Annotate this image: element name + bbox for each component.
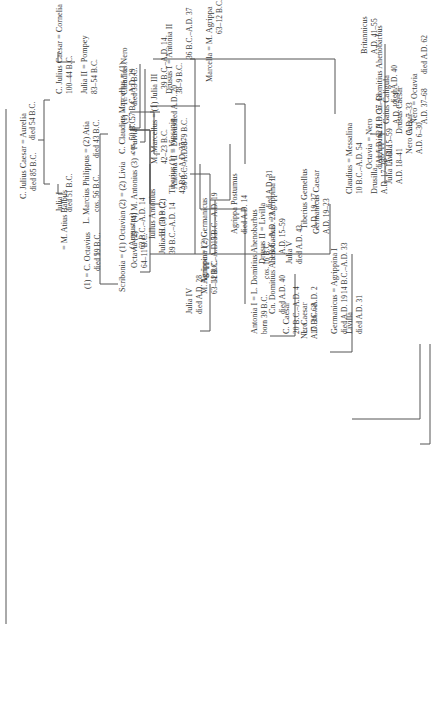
person-name: Livilla [345,295,355,334]
person-julia-livilla: Julia Livilla A.D. 18–41 [385,145,405,184]
person-dates: died A.D. 40 [390,65,400,104]
person-c-julius-caesar: C. Julius Caesar = Cornelia 100–44 B.C. [55,4,75,94]
person-atia-dates: died 43 B.C. [92,119,102,158]
person-julia-iii: Julia III (3) = (2) 39 B.C.–A.D. 14 [158,198,178,254]
person-dates: 63 B.C.–A.D. 14 [138,197,148,249]
person-name: (Augustus) [128,197,138,249]
person-name: Cn. Domitius Ahenobarbus = Agrippina II [268,176,278,314]
person-name: Britannicus [360,16,370,54]
person-name: (1) = C. Octavius [83,232,93,289]
person-name: Nero [300,303,310,339]
person-name: Julia III (3) = (2) [158,198,168,254]
person-dates: 38–9 B.C. [175,24,185,94]
person-claudius: Claudius = Messalina 10 B.C.–A.D. 54 [345,123,365,194]
person-ti-claudius-nero: (1) = Ti. Claudius Nero died 33 B.C. [120,47,140,124]
person-drusus-i-antonia-ii: Drusus I = Antonia II 38–9 B.C. [165,24,185,94]
person-dates: A.D. 19–23 [322,170,332,234]
person-name: Julia IV [185,275,195,314]
person-aurelia-dates: died 54 B.C. [28,101,38,140]
person-name: C. Julius Caesar = Cornelia [55,4,65,94]
person-name: Drusilla [370,158,380,194]
person-dates: died A.D. 14 [240,173,250,234]
person-agrippa-postumus: Agrippa Postumus died A.D. 14 [230,173,250,234]
person-dates: died 59 B.C. [93,232,103,289]
person-dates: died 33 B.C. [130,47,140,124]
person-name: M. Marcellus = (1) Julia III [150,74,160,164]
person-dates: died A.D. 43 [295,225,305,264]
person-name: Tiberius (1) = Vipsania [168,118,178,194]
person-name: Julia Livilla [385,145,395,184]
person-name: Drusus II = Livilla [258,203,268,264]
person-dates: 63–12 B.C. [215,0,225,82]
person-name: L. Marcius Philippus = (2) Atia [82,121,92,224]
person-nero-a: Nero A.D. 36–68 [300,303,320,339]
person-cn-domitius-ahenobarbus-2: died A.D. 40 [390,65,400,104]
person-agrippina-ii-dates: A.D. 15–59 [278,218,288,254]
tree-connector-lines [0,0,432,724]
person-name: = M. Atius Balbus [60,190,70,250]
person-dates: 100–44 B.C. [65,4,75,94]
person-octavian-augustus: (Augustus) 63 B.C.–A.D. 14 [128,197,148,249]
person-dates: A.D. 15–59 [278,218,288,254]
person-dates: 14 B.C.–A.D. 33 [340,242,350,294]
person-dates: died 43 B.C. [92,119,102,158]
person-dates: 15 B.C.–A.D. 19 [210,192,220,244]
person-scribonia-octavian-livia: Scribonia = (1) Octavian (2) = (2) Livia [118,162,128,292]
person-germanicus-dates: 15 B.C.–A.D. 19 [210,192,220,244]
person-tiberius: Tiberius (1) = Vipsania 42 B.C.–A.D. 37 [168,118,188,194]
person-name: Agrippina I = Germanicus [200,198,210,284]
person-dates: A.D. 19–37 [310,169,320,229]
person-name: Germanicus = Agrippina I [330,248,340,334]
person-name: Julia II = Pompey [80,35,90,94]
person-tiberius-gemellus: Tiberius Gemellus A.D. 19–37 [300,169,320,229]
person-name: Claudius = Messalina [345,123,355,194]
person-julia-v: Julia V died A.D. 43 [285,225,305,264]
person-dates: 36 B.C.–A.D. 37 [185,7,195,59]
person-dates: died 54 B.C. [28,101,38,140]
person-name: Marcella = M. Agrippa [205,0,215,82]
person-dates: A.D. 18–41 [395,145,405,184]
person-julia-ii: Julia II = Pompey 83–54 B.C. [80,35,100,94]
person-dates: A.D. 36–68 [310,303,320,339]
person-nero-c: Nero = Octavia A.D. 37–68 [410,73,430,124]
person-name: (1) = Ti. Claudius Nero [120,47,130,124]
person-m-atius-balbus: = M. Atius Balbus [60,190,70,250]
family-tree-diagram: C. Julius Caesar = Aurelia died 85 B.C. … [0,0,432,724]
person-c-octavius: (1) = C. Octavius died 59 B.C. [83,232,103,289]
person-octavia-3-dates: died A.D. 62 [420,35,430,74]
person-dates: 10 B.C.–A.D. 54 [355,123,365,194]
person-dates: 39 B.C.–A.D. 14 [168,198,178,254]
person-dates: 83–54 B.C. [90,35,100,94]
person-name: Agrippina II = Cn. Domitius Ahenobarbus [375,25,385,164]
person-dates: 42 B.C.–A.D. 37 [178,118,188,194]
person-dates: A.D. 37–68 [420,73,430,124]
person-dates: died A.D. 62 [420,35,430,74]
person-antonia-ii-dates: 36 B.C.–A.D. 37 [185,7,195,59]
person-name: Agrippa Postumus [230,173,240,234]
person-name: Iullus Antonius [148,189,158,239]
person-name: Drusus I = Antonia II [165,24,175,94]
person-livilla: Livilla died A.D. 31 [345,295,365,334]
person-name: Tiberius Gemellus [300,169,310,229]
person-name: Scribonia = (1) Octavian (2) = (2) Livia [118,162,128,292]
person-agrippina-i-dates: 14 B.C.–A.D. 33 [340,242,350,294]
person-name: Nero = Octavia [410,73,420,124]
person-dates: died A.D. 31 [355,295,365,334]
person-marcella: Marcella = M. Agrippa 63–12 B.C. [205,0,225,82]
